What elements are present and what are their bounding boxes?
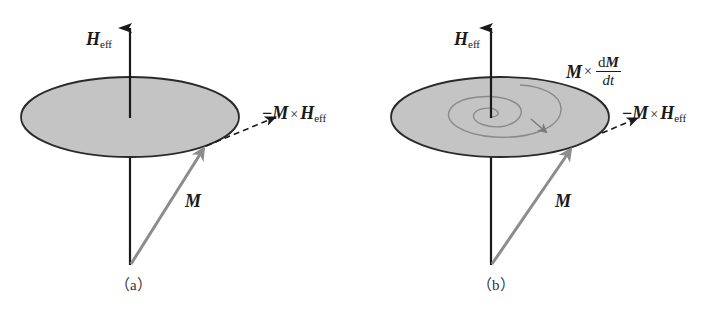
heff-label-a: Heff <box>86 30 112 48</box>
damping-torque-label-b: M×dMdt <box>566 55 621 88</box>
precession-disk-b <box>391 77 609 157</box>
torque-h-b: H <box>660 103 674 123</box>
cross-sign-a: × <box>290 107 298 122</box>
magnetization-label-a: M <box>185 192 201 210</box>
torque-subscript-a: eff <box>314 112 326 124</box>
precession-torque-label-b: −M×Heff <box>622 104 686 122</box>
magnetization-label-b: M <box>555 192 571 210</box>
dm-dt-fraction: dMdt <box>596 55 621 88</box>
cross-sign-b: × <box>650 107 658 122</box>
minus-sign-a: − <box>262 103 272 123</box>
caption-a: （a） <box>115 278 152 293</box>
damping-m-b: M <box>566 62 582 82</box>
heff-label-b: Heff <box>454 30 480 48</box>
minus-sign-b: − <box>622 103 632 123</box>
panel-a-graphics <box>21 28 276 265</box>
denominator-dt: dt <box>596 72 621 88</box>
heff-subscript-b: eff <box>468 38 480 50</box>
torque-subscript-b: eff <box>674 112 686 124</box>
precession-torque-label-a: −M×Heff <box>262 104 326 122</box>
damping-cross-b: × <box>584 64 592 79</box>
heff-subscript-a: eff <box>100 38 112 50</box>
heff-symbol-b: H <box>454 29 468 49</box>
numerator-m: M <box>605 54 618 70</box>
precession-diagram-figure: Heff −M×Heff M （a） Heff M×dMdt −M×Heff M… <box>0 0 705 310</box>
torque-m-a: M <box>272 103 288 123</box>
caption-b: （b） <box>477 278 515 293</box>
torque-m-b: M <box>632 103 648 123</box>
heff-symbol-a: H <box>86 29 100 49</box>
torque-h-a: H <box>300 103 314 123</box>
